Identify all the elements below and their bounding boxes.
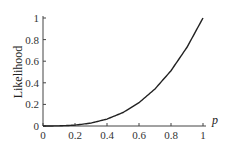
y-tick-label: 0 (34, 120, 40, 132)
x-axis-label: p (211, 113, 218, 127)
x-tick-label: 0 (40, 129, 46, 141)
y-tick-label: 1 (34, 12, 40, 24)
axes: 00.20.40.60.8100.20.40.60.81 (25, 12, 206, 141)
y-tick-label: 0.4 (25, 77, 39, 89)
x-tick-label: 0.4 (100, 129, 114, 141)
x-tick-label: 0.8 (164, 129, 178, 141)
likelihood-chart: 00.20.40.60.8100.20.40.60.81 Likelihood … (0, 0, 228, 145)
x-tick-label: 0.6 (132, 129, 146, 141)
likelihood-curve (43, 18, 203, 126)
y-tick-label: 0.2 (25, 98, 39, 110)
y-axis-label: Likelihood (11, 46, 25, 99)
x-tick-label: 1 (200, 129, 206, 141)
y-tick-label: 0.6 (25, 55, 39, 67)
y-tick-label: 0.8 (25, 34, 39, 46)
x-tick-label: 0.2 (68, 129, 82, 141)
